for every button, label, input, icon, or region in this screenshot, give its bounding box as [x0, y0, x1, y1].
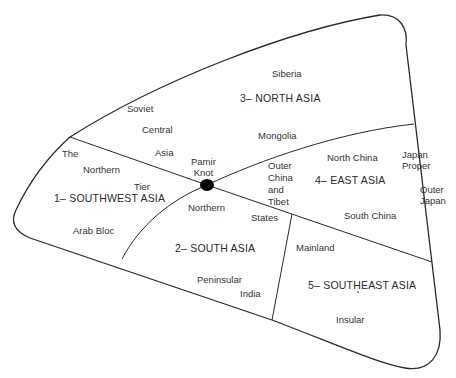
dot-marker — [357, 291, 359, 293]
divider-southwest-north — [70, 137, 207, 185]
sublabel-outer-china-1: Outer — [268, 160, 292, 171]
pamir-knot-label: Pamir Knot — [191, 156, 216, 178]
region-title-southwest: 1– SOUTHWEST ASIA — [54, 193, 165, 204]
asia-regions-diagram: Pamir Knot 1– SOUTHWEST ASIA The Norther… — [0, 0, 456, 378]
region-title-north: 3– NORTH ASIA — [240, 93, 321, 104]
sublabel-the: The — [62, 148, 78, 159]
sublabel-outer-japan-2: Japan — [420, 195, 446, 206]
pamir-label-line1: Pamir — [191, 156, 216, 167]
region-title-southeast: 5– SOUTHEAST ASIA — [308, 280, 416, 291]
sublabel-india: India — [240, 288, 261, 299]
region-title-south: 2– SOUTH ASIA — [175, 243, 255, 254]
sublabel-outer-japan-1: Outer — [420, 184, 444, 195]
sublabel-insular: Insular — [336, 314, 365, 325]
sublabel-north-china: North China — [327, 152, 378, 163]
sublabel-tier: Tier — [134, 181, 150, 192]
sublabel-south-china: South China — [344, 210, 396, 221]
sublabel-arab-bloc: Arab Bloc — [73, 225, 114, 236]
sublabel-tibet: Tibet — [268, 196, 289, 207]
sublabel-mongolia: Mongolia — [258, 130, 297, 141]
pamir-label-line2: Knot — [191, 167, 216, 178]
pamir-knot-node — [200, 179, 214, 191]
sublabel-siberia: Siberia — [272, 68, 302, 79]
sublabel-japan-proper-2: Proper — [402, 160, 431, 171]
sublabel-central: Central — [142, 124, 173, 135]
diagram-lines — [0, 0, 456, 378]
sublabel-soviet: Soviet — [127, 103, 153, 114]
sublabel-japan-proper-1: Japan — [402, 149, 428, 160]
sublabel-outer-china-3: and — [268, 184, 284, 195]
divider-south-southeast — [272, 214, 292, 320]
sublabel-asia: Asia — [155, 147, 173, 158]
sublabel-northern-tier-1: Northern — [83, 164, 120, 175]
sublabel-mainland: Mainland — [296, 242, 335, 253]
sublabel-outer-china-2: China — [268, 172, 293, 183]
region-title-east: 4– EAST ASIA — [315, 175, 386, 186]
sublabel-northern-states-1: Northern — [188, 202, 225, 213]
sublabel-states: States — [251, 212, 278, 223]
sublabel-peninsular: Peninsular — [197, 274, 242, 285]
